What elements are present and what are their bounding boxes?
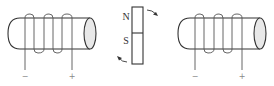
rotation-arrow-top-icon: [147, 10, 158, 16]
coil-right-end-face: [254, 18, 266, 49]
coil-right-cylinder: [178, 18, 260, 49]
coil-right-minus-label: −: [192, 72, 199, 81]
coil-left-windings: [25, 14, 72, 70]
coil-left-minus-label: −: [22, 72, 29, 81]
south-pole-label: S: [123, 35, 129, 46]
magnet-body: [132, 7, 143, 64]
north-pole-label: N: [122, 11, 129, 22]
induction-diagram: − + N S − +: [0, 0, 274, 86]
coil-left-plus-label: +: [69, 72, 76, 81]
coil-left-end-face: [84, 18, 96, 49]
bar-magnet: N S: [117, 7, 158, 64]
coil-right-plus-label: +: [239, 72, 246, 81]
coil-left: − +: [8, 14, 96, 81]
rotation-arrow-bottom-icon: [117, 56, 127, 62]
coil-right-windings: [195, 14, 242, 70]
coil-right: − +: [178, 14, 266, 81]
coil-left-cylinder: [8, 18, 90, 49]
